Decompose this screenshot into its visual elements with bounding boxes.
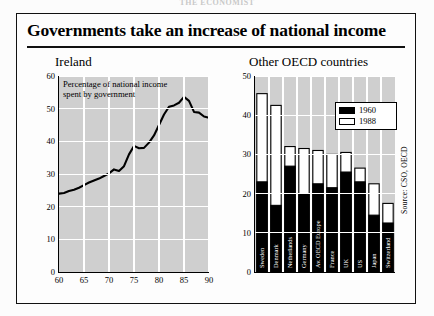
oecd-y-axis <box>254 76 255 273</box>
ireland-y-tick: 30 <box>33 170 55 178</box>
legend-swatch-1960 <box>339 107 355 114</box>
ireland-x-tick: 65 <box>74 276 94 284</box>
oecd-bar-label: Denmark <box>272 243 279 268</box>
oecd-gridline-v <box>324 76 325 272</box>
oecd-x-axis <box>254 272 395 273</box>
figure-page: THE ECONOMIST Governments take an increa… <box>0 0 434 316</box>
oecd-bar-label: Japan <box>370 253 377 268</box>
ireland-annotation-line: Percentage of national income <box>63 79 167 89</box>
ireland-y-axis <box>58 76 59 273</box>
ireland-gridline-v <box>108 76 109 272</box>
ireland-x-tick: 75 <box>124 276 144 284</box>
legend-item-1988: 1988 <box>339 116 393 127</box>
ireland-x-tick: 90 <box>199 276 219 284</box>
oecd-panel-title: Other OECD countries <box>249 54 368 70</box>
oecd-bar-label: US <box>356 259 363 268</box>
oecd-bar-label: UK <box>342 258 349 268</box>
ireland-y-tick: 0 <box>33 268 55 276</box>
legend-label-1960: 1960 <box>359 106 376 115</box>
oecd-bar-label: Switzerland <box>384 237 391 268</box>
ireland-y-tick: 40 <box>33 137 55 145</box>
ireland-x-tick: 70 <box>99 276 119 284</box>
masthead-text: THE ECONOMIST <box>0 0 434 7</box>
oecd-gridline-v <box>282 76 283 272</box>
ireland-x-tick: 80 <box>149 276 169 284</box>
oecd-gridline-v <box>310 76 311 272</box>
oecd-y-tick: 20 <box>229 190 251 198</box>
oecd-y-tick: 0 <box>229 268 251 276</box>
ireland-x-tick: 85 <box>174 276 194 284</box>
oecd-y-tick: 10 <box>229 229 251 237</box>
ireland-y-tick: 10 <box>33 235 55 243</box>
oecd-gridline-v <box>296 76 297 272</box>
ireland-gridline-v <box>158 76 159 272</box>
legend-label-1988: 1988 <box>359 117 376 126</box>
ireland-x-axis <box>58 272 209 273</box>
oecd-y-tick: 40 <box>229 111 251 119</box>
figure-frame: Governments take an increase of national… <box>16 13 416 304</box>
chart-legend: 1960 1988 <box>335 102 397 130</box>
ireland-annotation-line: spent by government <box>63 89 135 99</box>
oecd-y-tick: 30 <box>229 150 251 158</box>
oecd-bar-label: Sweden <box>258 247 265 268</box>
ireland-gridline-v <box>183 76 184 272</box>
oecd-bar-label: Netherlands <box>286 237 293 268</box>
ireland-x-tick: 60 <box>49 276 69 284</box>
ireland-y-tick: 60 <box>33 72 55 80</box>
title-rule <box>27 46 405 48</box>
ireland-gridline-v <box>133 76 134 272</box>
figure-title: Governments take an increase of national… <box>27 20 405 41</box>
ireland-y-tick: 50 <box>33 105 55 113</box>
ireland-panel-title: Ireland <box>55 54 92 70</box>
oecd-y-tick: 50 <box>229 72 251 80</box>
ireland-gridline-v <box>208 76 209 272</box>
legend-item-1960: 1960 <box>339 105 393 116</box>
source-note: Source: CSO, OECD <box>400 146 409 214</box>
oecd-bar-label: France <box>328 250 335 268</box>
oecd-bar-label: Av. OECD Europe <box>314 220 321 268</box>
ireland-y-tick: 20 <box>33 203 55 211</box>
ireland-gridline-v <box>83 76 84 272</box>
oecd-gridline-v <box>268 76 269 272</box>
oecd-bar-label: Germany <box>300 243 307 268</box>
legend-swatch-1988 <box>339 118 355 125</box>
